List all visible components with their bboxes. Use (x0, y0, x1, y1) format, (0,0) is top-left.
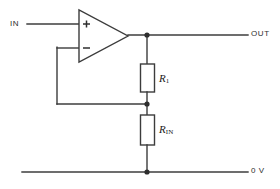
resistor-r1-label-main: R (159, 72, 166, 84)
resistor-r1-symbol (141, 64, 155, 92)
ground-terminal-label: 0 V (251, 167, 265, 175)
output-terminal-label: OUT (251, 30, 270, 38)
resistor-rin-label-main: R (159, 123, 166, 135)
resistor-r1-label-sub: 1 (166, 77, 170, 85)
feedback-node-dot (144, 101, 149, 106)
resistor-rin-symbol (141, 115, 155, 145)
opamp-triangle (79, 10, 128, 62)
circuit-diagram: IN OUT 0 V R1 RIN (0, 0, 280, 189)
resistor-rin-label-sub: IN (166, 128, 174, 136)
input-terminal-label: IN (10, 20, 19, 28)
resistor-r1-label: R1 (159, 73, 170, 85)
ground-node-dot (144, 169, 149, 174)
resistor-rin-label: RIN (159, 124, 174, 136)
schematic-canvas (0, 0, 280, 189)
output-node-dot (144, 32, 149, 37)
